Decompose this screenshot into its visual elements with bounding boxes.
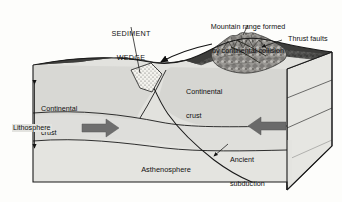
label-continental-crust-right-line1: Continental [186, 88, 222, 96]
label-continental-crust-right-line2: crust [186, 112, 222, 120]
label-sediment-wedge: SEDIMENT WEDGE [99, 14, 163, 70]
label-sediment-wedge-line1: SEDIMENT [99, 30, 163, 38]
label-thrust-faults: Thrust faults [288, 35, 328, 43]
label-mountain-range: Mountain range formed by continental col… [200, 7, 296, 63]
label-continental-crust-right: Continental crust [186, 72, 222, 128]
label-asthenosphere: Asthenosphere [120, 166, 212, 174]
label-subduction-line1: Ancient [230, 156, 265, 164]
label-sediment-wedge-line2: WEDGE [99, 54, 163, 62]
label-subduction-line2: subduction [230, 180, 265, 188]
label-ancient-subduction-zone: Ancient subduction zone [230, 140, 265, 202]
label-mountain-range-line1: Mountain range formed [200, 23, 296, 31]
label-continental-crust-left-line1: Continental [41, 105, 77, 113]
label-mountain-range-line2: by continental collision [200, 47, 296, 55]
label-lithosphere: Lithosphere [12, 124, 52, 132]
block-diagram-figure: SEDIMENT WEDGE Mountain range formed by … [0, 0, 342, 202]
label-continental-crust-left: Continental crust [41, 89, 77, 145]
